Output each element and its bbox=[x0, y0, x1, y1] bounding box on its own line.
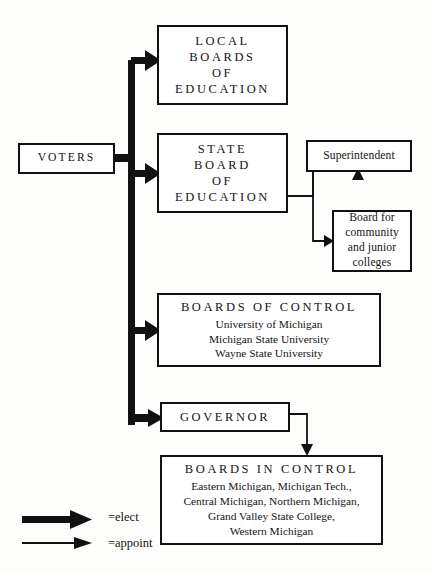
node-local-boards-of-education[interactable]: LOCAL BOARDS OF EDUCATION bbox=[157, 25, 288, 105]
legend-row-elect: =elect bbox=[22, 508, 172, 534]
list-item: Eastern Michigan, Michigan Tech., bbox=[183, 479, 359, 494]
branch-governor-line bbox=[128, 414, 154, 422]
state-board-line-4: EDUCATION bbox=[175, 189, 270, 205]
list-item: Grand Valley State College, bbox=[183, 509, 359, 524]
community-colleges-line-2: community bbox=[345, 226, 399, 241]
node-state-board-of-education[interactable]: STATE BOARD OF EDUCATION bbox=[157, 133, 288, 213]
legend-elect-label: =elect bbox=[108, 510, 139, 525]
legend-appoint-label: =appoint bbox=[108, 536, 153, 551]
community-colleges-line-1: Board for bbox=[349, 211, 395, 226]
list-item: Central Michigan, Northern Michigan, bbox=[183, 494, 359, 509]
state-board-line-2: BOARD bbox=[194, 157, 251, 173]
voters-to-trunk-line bbox=[113, 154, 135, 162]
local-boards-line-4: EDUCATION bbox=[175, 81, 270, 97]
node-governor[interactable]: GOVERNOR bbox=[160, 402, 290, 432]
community-colleges-line-4: colleges bbox=[353, 256, 392, 271]
node-boards-of-control[interactable]: BOARDS OF CONTROL University of Michigan… bbox=[157, 293, 381, 367]
state-board-line-3: OF bbox=[212, 173, 233, 189]
list-item: Western Michigan bbox=[183, 524, 359, 539]
branch-state-board-line bbox=[131, 170, 151, 177]
governor-to-boards-in-control-path bbox=[290, 414, 307, 444]
local-boards-line-2: BOARDS bbox=[189, 49, 255, 65]
diagram-canvas: VOTERS LOCAL BOARDS OF EDUCATION STATE B… bbox=[0, 0, 433, 572]
community-colleges-line-3: and junior bbox=[348, 241, 396, 256]
legend: =elect =appoint bbox=[22, 508, 172, 560]
boards-of-control-list: University of Michigan Michigan State Un… bbox=[209, 317, 329, 361]
branch-boards-of-control-line bbox=[131, 327, 151, 334]
state-board-line-1: STATE bbox=[198, 141, 248, 157]
branch-local-boards-line bbox=[131, 57, 151, 64]
boards-in-control-list: Eastern Michigan, Michigan Tech., Centra… bbox=[183, 479, 359, 538]
legend-row-appoint: =appoint bbox=[22, 534, 172, 560]
list-item: Wayne State University bbox=[209, 346, 329, 361]
list-item: Michigan State University bbox=[209, 332, 329, 347]
local-boards-line-3: OF bbox=[212, 65, 233, 81]
state-board-to-community-colleges-path bbox=[313, 196, 324, 241]
list-item: University of Michigan bbox=[209, 317, 329, 332]
node-voters[interactable]: VOTERS bbox=[18, 143, 115, 174]
governor-label: GOVERNOR bbox=[180, 409, 270, 425]
node-board-for-community-and-junior-colleges[interactable]: Board for community and junior colleges bbox=[332, 210, 412, 272]
node-boards-in-control[interactable]: BOARDS IN CONTROL Eastern Michigan, Mich… bbox=[160, 455, 383, 545]
superintendent-label: Superintendent bbox=[323, 149, 395, 164]
local-boards-line-1: LOCAL bbox=[195, 33, 250, 49]
boards-of-control-heading: BOARDS OF CONTROL bbox=[181, 299, 357, 315]
trunk-line bbox=[128, 60, 135, 425]
voters-label: VOTERS bbox=[38, 151, 96, 166]
node-superintendent[interactable]: Superintendent bbox=[306, 140, 412, 172]
boards-in-control-heading: BOARDS IN CONTROL bbox=[185, 461, 358, 477]
